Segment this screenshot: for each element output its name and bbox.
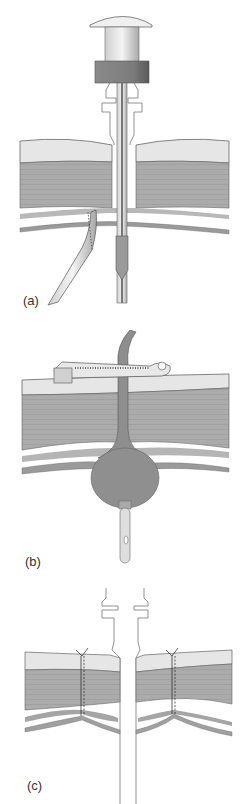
balloon-tube-illustration [0,330,249,580]
trocar-illustration [0,0,249,330]
panel-a: (a) [0,0,249,330]
retention-balloon [91,448,159,508]
panel-label-c: (c) [27,778,42,793]
cannula-suture-illustration [0,580,249,804]
panel-label-a: (a) [23,293,39,308]
trocar-cap-top [90,17,152,28]
muscle-layer [20,161,112,208]
trocar-band [95,61,149,83]
tube-tip [120,508,130,563]
panel-label-b: (b) [25,554,41,569]
skin-layer [20,139,112,163]
panel-c: (c) [0,580,249,804]
panel-b: (b) [0,330,249,580]
